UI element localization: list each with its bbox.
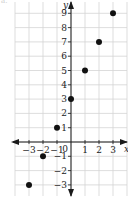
x-tick-label: 3: [110, 145, 116, 155]
data-point: [96, 39, 102, 45]
x-tick-label: 1: [82, 145, 88, 155]
y-tick-label: −2: [54, 166, 67, 176]
data-point: [26, 182, 32, 188]
y-tick-label: 1: [61, 123, 67, 133]
x-axis-label: x: [124, 144, 128, 154]
y-tick-label: 8: [61, 23, 67, 33]
y-tick-label: −3: [54, 180, 68, 190]
data-point: [110, 10, 116, 16]
y-axis-arrow-up: [68, 1, 74, 9]
y-tick-label: 6: [61, 51, 67, 61]
y-axis-arrow-down: [68, 189, 74, 197]
data-point: [40, 153, 46, 159]
x-tick-label: 2: [96, 145, 102, 155]
x-tick-label: −3: [22, 145, 36, 155]
y-tick-label: 3: [61, 94, 67, 104]
y-tick-label: 9: [61, 8, 67, 18]
y-tick-label: 4: [61, 80, 67, 90]
scatter-chart: xy−3−2−1123−3−2−11234567890: [0, 0, 128, 198]
y-tick-label: 7: [61, 37, 67, 47]
data-point: [82, 68, 88, 74]
data-point: [54, 125, 60, 131]
y-tick-label: 2: [61, 108, 67, 118]
y-tick-label: 5: [61, 66, 67, 76]
data-point: [68, 96, 74, 102]
origin-label: 0: [62, 144, 68, 154]
